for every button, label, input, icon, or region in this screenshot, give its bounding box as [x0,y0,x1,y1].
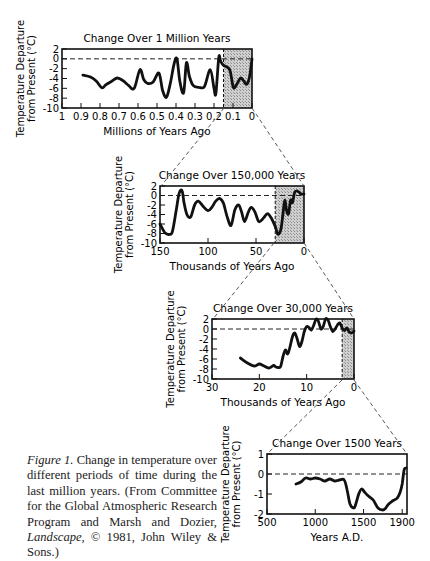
x-axis-label: Millions of Years Ago [103,125,210,137]
plot-frame [267,454,407,514]
x-tick-label: 0.3 [187,111,203,122]
y-tick-label: -1 [254,489,264,500]
x-tick-label: 150 [150,246,169,257]
y-tick-label: 0 [258,469,264,480]
y-axis-label: Temperature Departurefrom Present (°C) [15,20,37,138]
y-axis-label: Temperature Departurefrom Present (°C) [165,290,187,408]
caption-italic: Landscape, [27,530,85,544]
x-tick-label: 100 [198,246,217,257]
x-tick-label: 0.1 [225,111,241,122]
plot-frame [212,319,354,379]
x-axis-label: Thousands of Years Ago [220,396,346,408]
y-tick-label: -10 [43,103,59,114]
x-axis-label: Years A.D. [310,531,364,543]
y-axis-label: Temperature Departurefrom Present (°C) [220,425,242,543]
x-tick-label: 10 [300,382,313,393]
panel-4: 10-1-2500100015001900Change Over 1500 Ye… [220,425,415,543]
x-tick-label: 0 [249,111,255,122]
x-tick-label: 1000 [303,517,328,528]
x-tick-label: 0 [351,382,357,393]
caption-label: Figure 1. [27,453,73,467]
panel-1: 20-2-4-6-8-1010.90.80.70.60.50.40.30.20.… [15,20,255,138]
x-tick-label: 50 [250,246,263,257]
x-tick-label: 1500 [351,517,376,528]
chart-title: Change Over 1 Million Years [84,32,231,44]
chart-title: Change Over 30,000 Years [213,302,353,314]
chart-title: Change Over 150,000 Years [159,169,306,181]
x-tick-label: 0.7 [111,111,127,122]
x-axis-label: Thousands of Years Ago [169,260,295,272]
x-tick-label: 0.4 [168,111,184,122]
x-tick-label: 20 [253,382,266,393]
x-tick-label: 1 [59,111,65,122]
x-tick-label: 30 [206,382,219,393]
x-tick-label: 0.9 [73,111,89,122]
x-tick-label: 500 [257,517,276,528]
x-tick-label: 1900 [389,517,414,528]
x-tick-label: 0 [301,246,307,257]
figure-caption: Figure 1. Change in temperature over dif… [27,453,217,561]
x-tick-label: 0.6 [130,111,146,122]
x-tick-label: 0.8 [92,111,108,122]
y-axis-label: Temperature Departurefrom Present (°C) [113,156,135,274]
x-tick-label: 0.5 [149,111,165,122]
y-tick-label: 1 [258,449,264,460]
data-line [240,319,354,369]
panel-2: 20-2-4-6-8-10150100500Change Over 150,00… [113,156,307,274]
chart-title: Change Over 1500 Years [272,437,402,449]
panel-3: 20-2-4-6-8-103020100Change Over 30,000 Y… [165,290,357,408]
